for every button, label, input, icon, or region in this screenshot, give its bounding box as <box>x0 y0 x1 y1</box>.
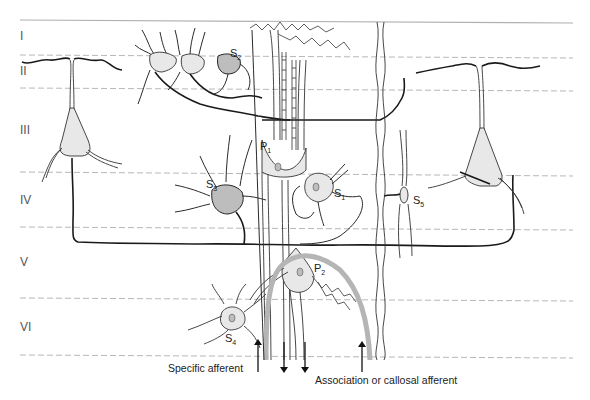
label-S1: S1 <box>334 187 345 201</box>
wavy-vertical-fiber <box>376 22 385 360</box>
layer-label-VI: VI <box>20 320 31 334</box>
boundary-II-III <box>20 88 573 91</box>
label-S3: S3 <box>206 178 217 192</box>
caption-association-afferent: Association or callosal afferent <box>315 374 457 386</box>
layer-label-I: I <box>20 29 23 43</box>
label-S5: S5 <box>413 194 424 208</box>
caption-specific-afferent: Specific afferent <box>168 362 243 374</box>
label-S2: S2 <box>230 47 241 61</box>
layer-label-IV: IV <box>20 193 31 207</box>
boundary-IV-V <box>20 227 573 230</box>
boundary-V-VI <box>20 298 573 301</box>
layer-label-III: III <box>20 123 30 137</box>
layer-label-V: V <box>20 255 28 269</box>
layer-label-II: II <box>20 64 27 78</box>
bipolar-cell-S5 <box>384 130 412 258</box>
stellate-cluster-S2 <box>135 28 405 120</box>
label-P1: P1 <box>260 140 271 154</box>
label-P2: P2 <box>314 262 325 276</box>
boundary-VI-white-matter <box>20 355 573 358</box>
pia-boundary <box>20 20 573 23</box>
layer-labels: I II III IV V VI <box>20 29 31 334</box>
cortical-circuit-diagram: I II III IV V VI <box>0 0 590 400</box>
boundary-I-II <box>20 55 573 58</box>
stellate-cell-S1 <box>293 164 363 244</box>
label-S4: S4 <box>225 332 236 346</box>
pyramidal-neuron-right <box>416 63 540 214</box>
